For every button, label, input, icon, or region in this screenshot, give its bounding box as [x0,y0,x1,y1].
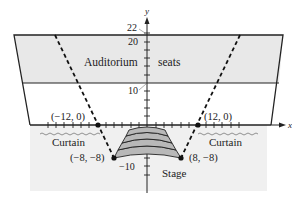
point-label-neg8-neg8: (−8, −8) [70,152,105,164]
stage-label: Stage [162,167,187,179]
x-axis-arrow-icon [279,123,286,128]
point-label-12-0: (12, 0) [204,111,232,123]
tick-22-leader [139,29,145,33]
point-8-neg8 [178,155,183,160]
y-axis-arrow-icon [145,17,150,24]
auditorium-label: Auditorium [84,56,138,68]
y-tick-22: 22 [127,22,137,33]
point-label-8-neg8: (8, −8) [189,152,218,164]
seats-label: seats [158,56,181,68]
tick-10-leader [139,84,146,90]
curtain-right-label: Curtain [209,136,242,148]
y-tick-10: 10 [128,85,138,96]
point-neg8-neg8 [111,155,116,160]
point-neg12-0 [95,122,100,127]
diagram-canvas: y x 22 20 10 −10 Auditorium seats Curtai… [0,0,292,200]
curtain-left-label: Curtain [52,136,85,148]
x-axis-label: x [287,120,292,130]
point-12-0 [195,122,200,127]
y-tick-20: 20 [128,36,138,47]
auditorium-diagram: y x 22 20 10 −10 Auditorium seats Curtai… [0,0,292,200]
y-tick-neg10: −10 [119,161,135,172]
point-label-neg12-0: (−12, 0) [51,111,85,123]
y-axis-label: y [144,6,149,16]
